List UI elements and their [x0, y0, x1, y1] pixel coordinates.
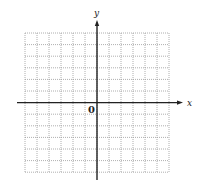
origin-label: 0 — [88, 104, 95, 115]
x-axis-label: x — [187, 98, 192, 108]
y-axis-arrow-icon — [95, 20, 99, 26]
coordinate-plane: x y 0 — [0, 0, 206, 184]
y-axis-label: y — [93, 8, 100, 18]
x-axis-arrow-icon — [177, 100, 183, 104]
